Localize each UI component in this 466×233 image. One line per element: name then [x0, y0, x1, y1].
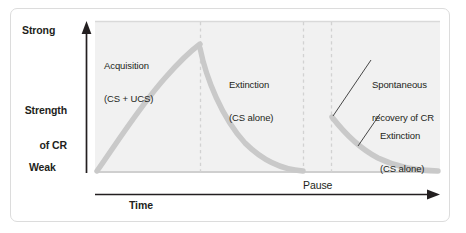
annotation-acquisition-line2: (CS + UCS) [104, 93, 153, 104]
x-axis-title: Time [129, 200, 153, 212]
annotation-acquisition: Acquisition (CS + UCS) [104, 38, 153, 126]
pause-label: Pause [303, 180, 332, 192]
y-axis-top-label: Strong [22, 25, 55, 37]
annotation-extinction-second-line1: Extinction [380, 130, 424, 141]
y-axis-title-line1: Strength [15, 105, 67, 117]
annotation-extinction-second: Extinction (CS alone) [380, 108, 424, 196]
annotation-extinction-first: Extinction (CS alone) [229, 57, 273, 145]
x-axis-arrow-icon [427, 190, 440, 200]
annotation-spontaneous-recovery-line1: Spontaneous [372, 79, 434, 90]
annotation-extinction-first-line1: Extinction [229, 79, 273, 90]
annotation-acquisition-line1: Acquisition [104, 60, 153, 71]
y-axis-title: Strength of CR [15, 82, 67, 174]
annotation-extinction-second-line2: (CS alone) [380, 163, 424, 174]
y-axis-title-line2: of CR [15, 140, 67, 152]
conditioning-curve-diagram: Strong Weak Strength of CR Time Pause Ac… [0, 0, 466, 233]
annotation-extinction-first-line2: (CS alone) [229, 112, 273, 123]
y-axis-arrow-icon [82, 21, 92, 34]
